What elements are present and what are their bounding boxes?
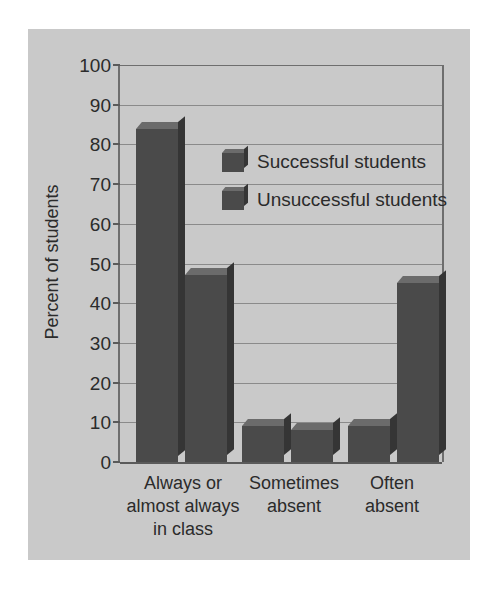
y-tickmark-10 (113, 421, 120, 423)
bar-unsuccessful-always (185, 275, 227, 462)
bar-top-face (397, 276, 445, 283)
y-tick-label-100: 100 (79, 56, 111, 75)
x-category-line-2: absent (238, 495, 350, 518)
y-tickmark-80 (113, 143, 120, 145)
chart-figure: Percent of students 100 90 80 70 60 50 (0, 0, 494, 596)
y-tick-label-80: 80 (90, 135, 111, 154)
y-tickmark-100 (113, 64, 120, 66)
bar-side-face (390, 413, 397, 455)
bar-top-face (348, 419, 396, 426)
y-tick-label-20: 20 (90, 373, 111, 392)
bar-top-face (185, 268, 233, 275)
bar-side-face (284, 413, 291, 455)
bar-unsuccessful-sometimes (291, 430, 333, 462)
bar-unsuccessful-often (397, 283, 439, 462)
y-tickmark-30 (113, 342, 120, 344)
x-category-line-2: absent (342, 495, 442, 518)
x-category-line-3: in class (118, 518, 248, 541)
y-tick-label-70: 70 (90, 175, 111, 194)
legend-swatch-icon (222, 153, 244, 172)
y-tickmark-60 (113, 223, 120, 225)
y-tick-label-30: 30 (90, 333, 111, 352)
chart-legend: Successful students Unsuccessful student… (222, 143, 447, 219)
gridline-90 (120, 105, 442, 106)
x-category-line-1: Always or (118, 472, 248, 495)
y-tick-label-90: 90 (90, 95, 111, 114)
bar-top-face (242, 419, 290, 426)
bar-top-face (291, 423, 339, 430)
x-category-label-always: Always or almost always in class (118, 472, 248, 541)
bar-side-face (227, 263, 234, 455)
plot-area: 100 90 80 70 60 50 40 30 20 10 0 (118, 65, 444, 462)
x-category-line-1: Often (342, 472, 442, 495)
y-tick-label-40: 40 (90, 294, 111, 313)
legend-item-successful[interactable]: Successful students (222, 143, 447, 181)
y-tickmark-20 (113, 382, 120, 384)
x-category-line-1: Sometimes (238, 472, 350, 495)
legend-label-successful: Successful students (257, 151, 426, 173)
y-tick-label-10: 10 (90, 413, 111, 432)
gridline-100 (120, 65, 442, 66)
legend-item-unsuccessful[interactable]: Unsuccessful students (222, 181, 447, 219)
y-tickmark-40 (113, 302, 120, 304)
bar-successful-sometimes (242, 426, 284, 462)
y-tick-label-0: 0 (100, 453, 111, 472)
y-tickmark-70 (113, 183, 120, 185)
y-tick-label-50: 50 (90, 254, 111, 273)
x-category-label-often: Often absent (342, 472, 442, 518)
legend-label-unsuccessful: Unsuccessful students (257, 189, 447, 211)
legend-swatch-icon (222, 191, 244, 210)
bar-side-face (439, 271, 446, 455)
y-axis-title: Percent of students (42, 184, 63, 339)
y-tickmark-90 (113, 104, 120, 106)
x-category-line-2: almost always (118, 495, 248, 518)
bar-top-face (136, 122, 184, 129)
bar-side-face (178, 116, 185, 455)
bar-successful-always (136, 129, 178, 463)
bar-successful-often (348, 426, 390, 462)
bar-side-face (333, 417, 340, 455)
y-tickmark-0 (113, 461, 120, 463)
y-tickmark-50 (113, 263, 120, 265)
x-category-label-sometimes: Sometimes absent (238, 472, 350, 518)
x-axis-baseline (120, 462, 442, 464)
y-tick-label-60: 60 (90, 214, 111, 233)
